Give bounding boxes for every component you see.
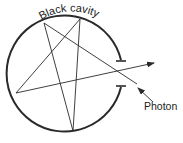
outgoing-ray-arrow	[16, 63, 154, 93]
black-cavity-diagram: Black cavity Photon	[0, 0, 183, 143]
photon-reflection-path	[16, 19, 137, 131]
photon-label: Photon	[144, 100, 177, 112]
black-cavity-label: Black cavity	[37, 1, 102, 21]
